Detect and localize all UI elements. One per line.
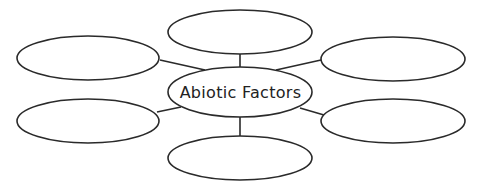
- node-right-lower-text[interactable]: [321, 99, 465, 143]
- node-right-upper-text[interactable]: [321, 37, 465, 81]
- node-top-text[interactable]: [168, 10, 313, 54]
- node-bottom-text[interactable]: [168, 136, 313, 180]
- center-label: Abiotic Factors: [168, 66, 313, 118]
- concept-web-diagram: Abiotic Factors: [0, 0, 478, 191]
- node-left-upper-text[interactable]: [17, 36, 159, 80]
- node-left-lower-text[interactable]: [17, 99, 159, 143]
